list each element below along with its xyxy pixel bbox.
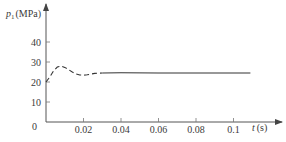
x-tick-label: 0.04 [112,124,130,135]
x-tick-label: 0.08 [187,124,205,135]
chart-canvas: 010203040 0.020.040.060.080.1 p1(MPa) t(… [0,0,286,142]
y-ticks: 010203040 [31,37,50,132]
y-tick-label: 10 [31,97,41,108]
x-tick-label: 0.02 [75,124,93,135]
x-ticks: 0.020.040.060.080.1 [75,118,240,135]
y-tick-label: 30 [31,57,41,68]
y-tick-label: 0 [32,121,37,132]
y-axis-label: p1(MPa) [5,8,41,21]
y-tick-label: 40 [31,37,41,48]
x-tick-label: 0.06 [150,124,168,135]
transient-curve-dashed [46,66,102,82]
x-tick-label: 0.1 [227,124,240,135]
pressure-time-chart: 010203040 0.020.040.060.080.1 p1(MPa) t(… [0,0,286,142]
y-tick-label: 20 [31,77,41,88]
x-axis-label: t(s) [252,122,267,134]
